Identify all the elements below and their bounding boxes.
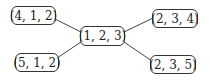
edge-412-123 [55,19,81,32]
node-4-1-2: (4, 1, 2) [11,6,56,25]
node-2-3-4: (2, 3, 4) [152,9,198,28]
node-1-2-3: (1, 2, 3) [80,26,125,46]
edge-123-235 [124,42,152,61]
node-5-1-2: (5, 1, 2) [15,53,59,72]
node-2-3-5: (2, 3, 5) [150,55,196,74]
edge-123-234 [124,18,153,32]
